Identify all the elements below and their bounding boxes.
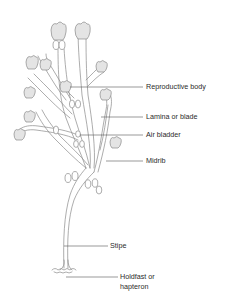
label-hapteron: hapteron bbox=[120, 282, 148, 291]
seaweed-diagram: Reproductive body Lamina or blade Air bl… bbox=[0, 0, 230, 298]
label-holdfast: Holdfast or bbox=[120, 272, 155, 281]
label-lamina-or-blade: Lamina or blade bbox=[146, 112, 198, 121]
label-midrib: Midrib bbox=[146, 156, 166, 165]
seaweed-illustration bbox=[0, 0, 230, 298]
label-stipe: Stipe bbox=[110, 241, 126, 250]
label-reproductive-body: Reproductive body bbox=[146, 82, 206, 91]
label-air-bladder: Air bladder bbox=[146, 130, 181, 139]
